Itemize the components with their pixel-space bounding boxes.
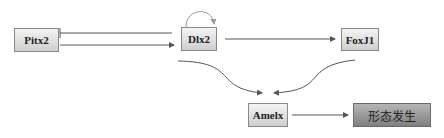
edge-foxj1-to-amelx	[274, 60, 355, 93]
edge-dlx2-inhibits-pitx2	[60, 28, 172, 38]
node-morphogenesis-label: 形态发生	[368, 107, 416, 124]
edge-dlx2-self-loop	[186, 12, 214, 27]
node-amelx: Amelx	[248, 103, 288, 127]
node-dlx2: Dlx2	[181, 27, 217, 51]
node-dlx2-label: Dlx2	[188, 33, 210, 45]
node-morphogenesis: 形态发生	[353, 103, 431, 127]
node-pitx2: Pitx2	[14, 28, 59, 52]
node-pitx2-label: Pitx2	[24, 34, 48, 46]
node-amelx-label: Amelx	[253, 109, 284, 121]
edge-dlx2-to-amelx	[178, 61, 262, 93]
node-foxj1: FoxJ1	[341, 28, 379, 51]
node-foxj1-label: FoxJ1	[346, 34, 375, 46]
